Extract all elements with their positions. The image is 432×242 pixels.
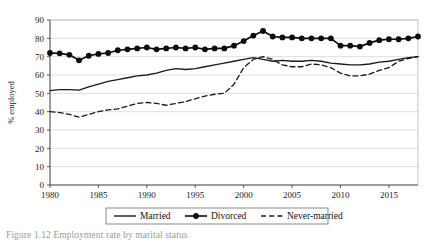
ytick-label-50: 50 [35,89,45,99]
series-marker-divorced-2000 [241,38,247,44]
series-marker-divorced-1988 [125,46,131,52]
series-marker-divorced-2007 [309,35,315,41]
series-marker-divorced-1986 [105,50,111,56]
series-marker-divorced-2001 [250,33,256,39]
series-marker-divorced-1980 [47,50,53,56]
legend-label-married: Married [140,211,171,221]
series-marker-divorced-2018 [415,34,421,40]
series-marker-divorced-1984 [86,53,92,59]
series-marker-divorced-2005 [289,35,295,41]
legend-label-divorced: Divorced [211,211,247,221]
series-marker-divorced-2010 [338,43,344,49]
xtick-label-1980: 1980 [41,190,60,200]
series-marker-divorced-2003 [270,34,276,40]
series-marker-divorced-1994 [183,46,189,52]
series-marker-divorced-1991 [154,46,160,52]
ytick-label-90: 90 [35,15,45,25]
series-marker-divorced-2006 [299,35,305,41]
y-axis-title: % employed [6,80,16,123]
xtick-label-2005: 2005 [283,190,302,200]
series-marker-divorced-1983 [76,57,82,63]
ytick-label-0: 0 [40,180,45,190]
series-marker-divorced-2013 [367,40,373,46]
ytick-label-10: 10 [35,162,45,172]
xtick-label-2010: 2010 [332,190,351,200]
series-marker-divorced-1990 [144,45,150,51]
series-marker-divorced-2012 [357,44,363,50]
series-marker-divorced-1981 [57,50,63,56]
series-marker-divorced-2008 [318,35,324,41]
series-marker-divorced-2004 [280,35,286,41]
series-marker-divorced-2011 [347,43,353,49]
ytick-label-40: 40 [35,107,45,117]
figure-caption: Figure 1.12 Employment rate by marital s… [6,230,188,240]
series-marker-divorced-2002 [260,28,266,34]
series-marker-divorced-2015 [386,36,392,42]
xtick-label-2000: 2000 [235,190,254,200]
xtick-label-1985: 1985 [89,190,108,200]
series-marker-divorced-2009 [328,35,334,41]
legend-marker-1 [193,213,199,219]
series-marker-divorced-1999 [231,43,237,49]
ytick-label-80: 80 [35,34,45,44]
series-marker-divorced-1987 [115,47,121,53]
figure-container: 0102030405060708090% employed19801985199… [0,0,432,242]
series-marker-divorced-1985 [96,51,102,57]
series-marker-divorced-2014 [376,37,382,43]
ytick-label-60: 60 [35,70,45,80]
series-marker-divorced-1989 [134,46,140,52]
series-marker-divorced-1995 [192,45,198,51]
series-marker-divorced-1993 [173,45,179,51]
chart-svg: 0102030405060708090% employed19801985199… [0,0,432,242]
series-marker-divorced-1996 [202,46,208,52]
ytick-label-70: 70 [35,52,45,62]
series-marker-divorced-2017 [405,35,411,41]
xtick-label-1990: 1990 [138,190,157,200]
series-marker-divorced-1997 [212,46,218,52]
series-marker-divorced-2016 [396,36,402,42]
series-marker-divorced-1992 [163,46,169,52]
ytick-label-30: 30 [35,125,45,135]
ytick-label-20: 20 [35,144,45,154]
series-marker-divorced-1998 [221,46,227,52]
legend-label-never-married: Never-married [287,211,343,221]
xtick-label-2015: 2015 [380,190,399,200]
series-marker-divorced-1982 [66,52,72,58]
xtick-label-1995: 1995 [186,190,205,200]
